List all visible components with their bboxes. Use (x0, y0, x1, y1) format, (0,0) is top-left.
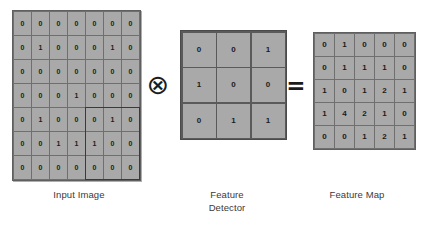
input-image-cell: 0 (122, 156, 139, 179)
input-image-cell: 0 (50, 12, 67, 35)
feature-detector-caption: Feature Detector (172, 189, 282, 215)
feature-map-cell: 0 (315, 34, 334, 56)
feature-map-cell: 0 (315, 126, 334, 148)
input-image-cell: 1 (86, 132, 103, 155)
input-image-cell: 0 (50, 108, 67, 131)
input-image-cell: 1 (32, 36, 49, 59)
feature-detector-panel: 001100011 (180, 30, 287, 140)
feature-detector-cell: 1 (217, 104, 250, 138)
input-image-cell: 0 (122, 84, 139, 107)
input-image-cell: 0 (122, 36, 139, 59)
feature-map-cell: 1 (355, 57, 374, 79)
input-image-cell: 0 (122, 60, 139, 83)
input-image-matrix: 0000000010001000000000001000010001000111… (12, 10, 141, 181)
input-image-cell: 0 (68, 60, 85, 83)
input-image-cell: 0 (32, 156, 49, 179)
feature-map-cell: 0 (335, 80, 354, 102)
equals-operator-icon: = (282, 74, 310, 97)
feature-detector-cell: 0 (252, 68, 285, 102)
feature-map-cell: 1 (315, 80, 334, 102)
input-image-cell: 0 (122, 108, 139, 131)
feature-detector-cell: 0 (217, 33, 250, 67)
input-image-caption: Input Image (16, 189, 142, 202)
input-image-cell: 1 (50, 132, 67, 155)
input-image-cell: 0 (68, 12, 85, 35)
input-image-cell: 0 (86, 12, 103, 35)
input-image-cell: 1 (68, 84, 85, 107)
input-image-cell: 1 (104, 108, 121, 131)
input-image-cell: 0 (104, 12, 121, 35)
input-image-cell: 0 (14, 108, 31, 131)
input-image-cell: 0 (32, 84, 49, 107)
input-image-cell: 0 (86, 84, 103, 107)
feature-detector-caption-line2: Detector (172, 202, 282, 215)
feature-map-cell: 0 (395, 57, 414, 79)
input-image-cell: 0 (122, 132, 139, 155)
feature-map-matrix: 0100001110101211421000121 (313, 32, 416, 150)
input-image-panel: 0000000010001000000000001000010001000111… (12, 10, 141, 181)
feature-map-panel: 0100001110101211421000121 (313, 32, 416, 150)
feature-map-cell: 1 (355, 126, 374, 148)
feature-map-cell: 1 (355, 80, 374, 102)
input-image-cell: 0 (86, 36, 103, 59)
feature-detector-cell: 1 (252, 104, 285, 138)
feature-detector-cell: 0 (183, 104, 216, 138)
feature-map-cell: 1 (335, 57, 354, 79)
input-image-cell: 0 (14, 156, 31, 179)
feature-map-cell: 1 (395, 126, 414, 148)
input-image-cell: 0 (68, 108, 85, 131)
input-image-cell: 0 (14, 36, 31, 59)
input-image-cell: 0 (32, 12, 49, 35)
input-image-cell: 0 (14, 60, 31, 83)
feature-detector-cell: 1 (252, 33, 285, 67)
input-image-cell: 0 (50, 36, 67, 59)
input-image-cell: 0 (86, 156, 103, 179)
feature-map-cell: 1 (375, 57, 394, 79)
input-image-cell: 0 (14, 12, 31, 35)
feature-map-cell: 0 (335, 126, 354, 148)
convolution-diagram: 0000000010001000000000001000010001000111… (0, 0, 429, 225)
feature-map-cell: 2 (375, 80, 394, 102)
feature-detector-cell: 0 (183, 33, 216, 67)
input-image-cell: 0 (32, 60, 49, 83)
feature-map-cell: 0 (355, 34, 374, 56)
input-image-cell: 1 (68, 132, 85, 155)
feature-detector-cell: 0 (217, 68, 250, 102)
input-image-cell: 0 (104, 156, 121, 179)
input-image-cell: 0 (50, 60, 67, 83)
feature-detector-matrix: 001100011 (180, 30, 287, 140)
feature-map-cell: 1 (335, 34, 354, 56)
feature-map-cell: 0 (315, 57, 334, 79)
input-image-cell: 0 (104, 60, 121, 83)
input-image-cell: 0 (32, 132, 49, 155)
feature-map-cell: 4 (335, 103, 354, 125)
input-image-cell: 0 (68, 156, 85, 179)
feature-map-cell: 1 (375, 103, 394, 125)
input-image-cell: 0 (50, 84, 67, 107)
input-image-cell: 0 (68, 36, 85, 59)
input-image-cell: 0 (50, 156, 67, 179)
feature-map-cell: 2 (355, 103, 374, 125)
input-image-cell: 0 (14, 132, 31, 155)
feature-map-cell: 1 (395, 80, 414, 102)
feature-detector-caption-line1: Feature (172, 189, 282, 202)
input-image-cell: 0 (86, 108, 103, 131)
feature-detector-cell: 1 (183, 68, 216, 102)
input-image-cell: 0 (104, 132, 121, 155)
input-image-cell: 0 (14, 84, 31, 107)
feature-map-cell: 0 (375, 34, 394, 56)
input-image-cell: 1 (32, 108, 49, 131)
input-image-cell: 1 (104, 36, 121, 59)
feature-map-cell: 1 (315, 103, 334, 125)
input-image-cell: 0 (122, 12, 139, 35)
feature-map-cell: 0 (395, 103, 414, 125)
feature-map-caption: Feature Map (296, 189, 418, 202)
input-image-cell: 0 (86, 60, 103, 83)
feature-map-cell: 0 (395, 34, 414, 56)
input-image-cell: 0 (104, 84, 121, 107)
convolution-operator-icon: ⊗ (140, 71, 176, 98)
feature-map-cell: 2 (375, 126, 394, 148)
